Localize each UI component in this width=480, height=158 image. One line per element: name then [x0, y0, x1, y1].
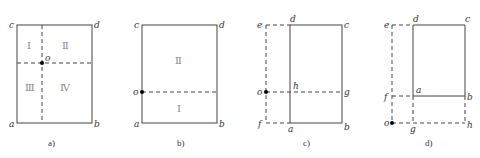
label-b: b — [467, 92, 473, 102]
label-f: f — [257, 119, 263, 129]
panel-d: e d c f a b o g h d) — [383, 14, 473, 148]
label-h: h — [293, 81, 299, 91]
label-b: b — [219, 119, 225, 129]
origin-point — [264, 90, 268, 94]
label-d: d — [290, 14, 296, 24]
label-o: o — [45, 53, 51, 63]
label-e: e — [257, 20, 262, 30]
caption-a: a) — [48, 138, 55, 148]
origin-point — [140, 90, 144, 94]
caption-c: c) — [303, 138, 310, 148]
label-c: c — [465, 14, 470, 24]
label-e: e — [384, 20, 389, 30]
label-c: c — [344, 20, 349, 30]
label-c: c — [9, 20, 14, 30]
label-d: d — [413, 14, 419, 24]
label-a: a — [9, 119, 14, 129]
label-o: o — [133, 87, 139, 97]
origin-point — [390, 121, 394, 125]
label-b: b — [344, 122, 350, 132]
label-o: o — [257, 87, 263, 97]
label-h: h — [467, 120, 473, 130]
label-g: g — [344, 87, 350, 97]
label-b: b — [94, 119, 100, 129]
label-c: c — [134, 20, 139, 30]
label-d: d — [94, 20, 100, 30]
region-2: Ⅱ — [62, 40, 69, 51]
label-g: g — [410, 124, 416, 134]
origin-point — [40, 61, 44, 65]
panel-c: e d c o h g f a b c) — [257, 14, 350, 148]
label-a: a — [416, 85, 421, 95]
region-1: Ⅰ — [177, 103, 181, 114]
label-d: d — [219, 20, 225, 30]
diagram-canvas: c d a b o Ⅰ Ⅱ Ⅲ Ⅳ a) c d a b o Ⅱ Ⅰ b) e … — [0, 0, 480, 158]
caption-b: b) — [177, 138, 185, 148]
region-2: Ⅱ — [175, 55, 182, 66]
region-3: Ⅲ — [25, 82, 35, 93]
region-1: Ⅰ — [27, 40, 31, 51]
label-a: a — [288, 124, 293, 134]
label-f: f — [383, 92, 389, 102]
caption-d: d) — [425, 138, 433, 148]
region-4: Ⅳ — [60, 82, 71, 93]
panel-b: c d a b o Ⅱ Ⅰ b) — [133, 20, 225, 148]
label-a: a — [134, 119, 139, 129]
label-o: o — [384, 118, 390, 128]
panel-a: c d a b o Ⅰ Ⅱ Ⅲ Ⅳ a) — [9, 20, 100, 148]
rectangle-abcd — [290, 25, 342, 123]
